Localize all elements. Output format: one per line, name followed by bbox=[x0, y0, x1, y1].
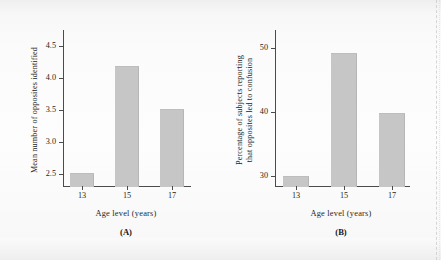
x-tick-label-a-1: 15 bbox=[115, 191, 139, 200]
y-tick-a-1 bbox=[59, 142, 63, 143]
bar-a-13 bbox=[70, 173, 94, 187]
x-tick-label-b-0: 13 bbox=[284, 191, 308, 200]
x-tick-label-a-0: 13 bbox=[70, 191, 94, 200]
x-tick-label-b-2: 17 bbox=[380, 191, 404, 200]
x-axis-title-a: Age level (years) bbox=[56, 209, 196, 218]
chart-panel-b: Percentage of subjects reportingthat opp… bbox=[213, 0, 428, 260]
panel-caption-b: (B) bbox=[271, 227, 411, 237]
bar-a-17 bbox=[160, 109, 184, 187]
bar-b-15 bbox=[331, 53, 357, 187]
x-tick-b-1 bbox=[344, 186, 345, 190]
y-tick-label-a-3: 4.0 bbox=[36, 73, 56, 82]
y-axis-title-b-line1: Percentage of subjects reporting bbox=[235, 55, 244, 165]
y-tick-b-2 bbox=[271, 48, 275, 49]
page-margin-dotted-line-secondary bbox=[439, 0, 440, 260]
x-tick-label-a-2: 17 bbox=[160, 191, 184, 200]
y-tick-label-a-0: 2.5 bbox=[36, 169, 56, 178]
chart-panel-a: Mean number of opposites identified 4.5 … bbox=[0, 0, 215, 260]
y-tick-a-4 bbox=[59, 46, 63, 47]
y-tick-label-a-4: 4.5 bbox=[36, 41, 56, 50]
x-tick-a-1 bbox=[127, 186, 128, 190]
y-tick-a-0 bbox=[59, 174, 63, 175]
y-tick-a-3 bbox=[59, 78, 63, 79]
panel-caption-a: (A) bbox=[56, 227, 196, 237]
y-axis-line-a bbox=[63, 30, 64, 186]
x-tick-label-b-1: 15 bbox=[332, 191, 356, 200]
y-tick-label-b-2: 50 bbox=[251, 43, 268, 52]
y-axis-line-b bbox=[275, 30, 276, 186]
x-tick-a-2 bbox=[172, 186, 173, 190]
x-tick-b-0 bbox=[296, 186, 297, 190]
y-tick-a-2 bbox=[59, 110, 63, 111]
y-tick-label-b-0: 30 bbox=[251, 171, 268, 180]
page-margin-dotted-line bbox=[436, 0, 437, 260]
y-tick-label-b-1: 40 bbox=[251, 107, 268, 116]
x-tick-a-0 bbox=[82, 186, 83, 190]
x-axis-title-b: Age level (years) bbox=[271, 209, 411, 218]
x-tick-b-2 bbox=[392, 186, 393, 190]
bar-b-17 bbox=[379, 113, 405, 187]
y-tick-label-a-1: 3.0 bbox=[36, 137, 56, 146]
y-tick-b-0 bbox=[271, 176, 275, 177]
y-tick-b-1 bbox=[271, 112, 275, 113]
bar-a-15 bbox=[115, 66, 139, 187]
y-tick-label-a-2: 3.5 bbox=[36, 105, 56, 114]
